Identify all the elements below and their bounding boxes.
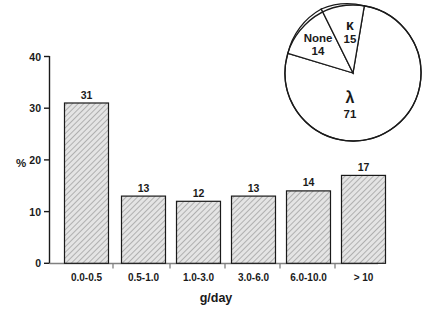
y-tick-label-0: 0 bbox=[35, 257, 41, 269]
bar-5 bbox=[342, 175, 386, 263]
bar-value-label-3: 13 bbox=[248, 182, 260, 194]
y-tick-label-10: 10 bbox=[29, 206, 41, 218]
pie-label-kappa: κ bbox=[346, 17, 354, 33]
pie-chart: None 14 κ 15 λ 71 bbox=[285, 4, 421, 141]
bar-value-label-5: 17 bbox=[358, 161, 370, 173]
y-tick-label-40: 40 bbox=[29, 51, 41, 63]
pie-label-none: None bbox=[304, 32, 333, 44]
bar-value-label-0: 31 bbox=[81, 89, 93, 101]
bar-0 bbox=[65, 103, 109, 263]
y-tick-label-30: 30 bbox=[29, 102, 41, 114]
y-axis-ticks bbox=[44, 57, 50, 264]
bar-2 bbox=[177, 201, 221, 263]
figure-canvas: 40 30 20 10 0 % 31 13 12 13 14 17 bbox=[0, 0, 425, 314]
pie-value-kappa: 15 bbox=[344, 33, 357, 45]
bar-value-label-4: 14 bbox=[303, 176, 315, 188]
pie-label-lambda: λ bbox=[346, 89, 355, 106]
y-axis-tick-labels: 40 30 20 10 0 bbox=[29, 51, 41, 270]
bar-1 bbox=[122, 196, 166, 263]
y-tick-label-20: 20 bbox=[29, 154, 41, 166]
pie-value-lambda: 71 bbox=[344, 108, 357, 120]
x-tick-label-4: 6.0-10.0 bbox=[290, 272, 327, 283]
x-tick-label-2: 1.0-3.0 bbox=[183, 272, 215, 283]
bar-value-label-2: 12 bbox=[193, 187, 205, 199]
x-tick-label-1: 0.5-1.0 bbox=[128, 272, 160, 283]
x-axis-title: g/day bbox=[200, 291, 233, 305]
bar-4 bbox=[287, 191, 331, 263]
x-tick-label-3: 3.0-6.0 bbox=[238, 272, 270, 283]
pie-value-none: 14 bbox=[312, 45, 325, 57]
x-axis-tick-labels: 0.0-0.5 0.5-1.0 1.0-3.0 3.0-6.0 6.0-10.0… bbox=[71, 272, 374, 283]
bar-3 bbox=[232, 196, 276, 263]
x-tick-label-0: 0.0-0.5 bbox=[71, 272, 103, 283]
y-axis-title: % bbox=[16, 157, 26, 169]
x-tick-label-5: > 10 bbox=[354, 272, 374, 283]
bar-value-label-1: 13 bbox=[138, 182, 150, 194]
x-axis-ticks bbox=[113, 264, 335, 269]
